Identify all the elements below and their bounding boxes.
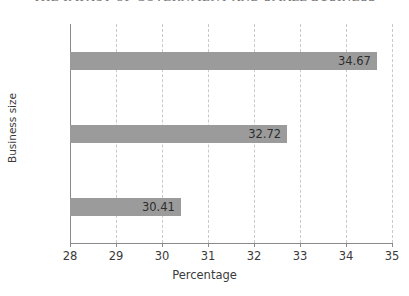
- x-axis-line: [70, 243, 392, 244]
- bar-value-label-medium: 32.72: [248, 127, 281, 141]
- x-tick-31: [208, 243, 209, 247]
- x-tick-label-34: 34: [339, 249, 354, 263]
- y-axis-title: Business size: [6, 73, 18, 183]
- x-tick-label-30: 30: [155, 249, 170, 263]
- horizontal-bar-chart: 34.6732.7230.41 Percentage Business size…: [0, 0, 409, 296]
- x-tick-label-33: 33: [293, 249, 308, 263]
- x-tick-label-31: 31: [201, 249, 216, 263]
- bar-small: 34.67: [70, 52, 377, 70]
- x-tick-34: [346, 243, 347, 247]
- x-tick-28: [70, 243, 71, 247]
- bar-medium: 32.72: [70, 125, 287, 143]
- plot-area: 34.6732.7230.41: [70, 24, 392, 243]
- x-tick-label-35: 35: [385, 249, 400, 263]
- bar-value-label-small: 34.67: [338, 54, 371, 68]
- x-tick-32: [254, 243, 255, 247]
- x-tick-label-32: 32: [247, 249, 262, 263]
- gridline-x-35: [392, 24, 393, 243]
- x-tick-label-29: 29: [109, 249, 124, 263]
- x-tick-30: [162, 243, 163, 247]
- x-tick-33: [300, 243, 301, 247]
- x-axis-title: Percentage: [0, 268, 409, 282]
- x-tick-29: [116, 243, 117, 247]
- bar-value-label-large: 30.41: [142, 200, 175, 214]
- x-tick-label-28: 28: [63, 249, 78, 263]
- x-tick-35: [392, 243, 393, 247]
- bar-large: 30.41: [70, 198, 181, 216]
